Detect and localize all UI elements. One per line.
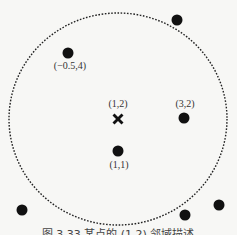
data-point xyxy=(172,15,183,26)
neighborhood-diagram: (−0.5,4)(3,2)(1,1) (1,2) 图 3.33 某点的 (1,2… xyxy=(0,0,237,235)
data-point xyxy=(180,210,191,221)
data-point xyxy=(179,113,190,124)
cross-marker: (1,2) xyxy=(108,98,127,124)
point-label: (3,2) xyxy=(175,98,194,110)
data-point xyxy=(214,200,225,211)
data-point xyxy=(63,48,74,59)
data-point xyxy=(113,146,124,157)
cross-label: (1,2) xyxy=(108,98,127,110)
point-label: (1,1) xyxy=(109,159,128,171)
data-point xyxy=(17,205,28,216)
point-label: (−0.5,4) xyxy=(54,60,86,72)
figure-caption: 图 3.33 某点的 (1,2) 邻域描述 xyxy=(42,227,195,235)
